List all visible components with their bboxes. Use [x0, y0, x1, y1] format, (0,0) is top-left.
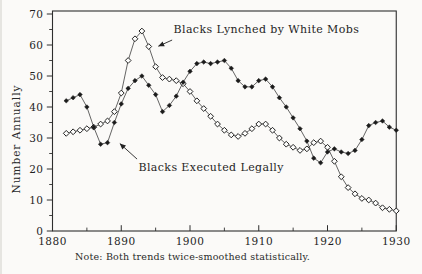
filled-diamond-marker: [332, 147, 337, 152]
chart-svg: 188018901900191019201930010203040506070B…: [0, 0, 422, 274]
filled-diamond-marker: [298, 126, 303, 131]
y-tick-label: 50: [29, 70, 43, 82]
y-tick-label: 10: [29, 194, 43, 206]
filled-diamond-marker: [366, 123, 371, 128]
filled-diamond-marker: [291, 116, 296, 121]
x-tick-label: 1900: [176, 235, 205, 247]
y-tick-label: 20: [29, 163, 43, 175]
x-axis-ticks: 188018901900191019201930: [38, 225, 410, 247]
filled-diamond-marker: [112, 120, 117, 125]
filled-diamond-marker: [373, 120, 378, 125]
y-tick-label: 0: [36, 225, 43, 237]
annotation-label: Blacks Executed Legally: [138, 161, 284, 174]
filled-diamond-marker: [85, 105, 90, 110]
filled-diamond-marker: [78, 92, 83, 97]
filled-diamond-marker: [394, 128, 399, 133]
open-diamond-marker: [173, 78, 179, 84]
open-diamond-marker: [249, 126, 255, 132]
y-tick-label: 40: [29, 101, 43, 113]
open-diamond-marker: [84, 126, 90, 132]
open-diamond-marker: [235, 134, 241, 140]
open-diamond-marker: [63, 130, 69, 136]
filled-diamond-marker: [71, 95, 76, 100]
x-tick-label: 1930: [382, 235, 411, 247]
open-diamond-marker: [338, 174, 344, 180]
open-diamond-marker: [105, 118, 111, 124]
open-diamond-marker: [98, 121, 104, 127]
filled-diamond-marker: [119, 102, 124, 107]
filled-diamond-marker: [305, 139, 310, 144]
filled-diamond-marker: [360, 137, 365, 142]
open-diamond-marker: [242, 130, 248, 136]
x-tick-label: 1880: [38, 235, 67, 247]
filled-diamond-marker: [353, 148, 358, 153]
x-tick-label: 1910: [244, 235, 273, 247]
filled-diamond-marker: [208, 61, 213, 66]
filled-diamond-marker: [64, 99, 69, 104]
open-diamond-marker: [366, 197, 372, 203]
filled-diamond-marker: [105, 140, 110, 145]
open-diamond-marker: [393, 208, 399, 214]
open-diamond-marker: [160, 75, 166, 81]
filled-diamond-marker: [318, 161, 323, 166]
open-diamond-marker: [153, 64, 159, 70]
footnote: Note: Both trends twice-smoothed statist…: [75, 251, 310, 262]
series-lynched-line: [66, 31, 396, 211]
filled-diamond-marker: [98, 142, 103, 147]
open-diamond-marker: [290, 144, 296, 150]
x-tick-label: 1890: [107, 235, 136, 247]
open-diamond-marker: [125, 58, 131, 64]
annotation-executed: Blacks Executed Legally: [120, 144, 284, 175]
y-axis-ticks: 010203040506070: [29, 8, 52, 237]
open-diamond-marker: [380, 205, 386, 211]
filled-diamond-marker: [339, 150, 344, 155]
open-diamond-marker: [70, 129, 76, 135]
annotation-arrow: [120, 144, 137, 160]
open-diamond-marker: [166, 76, 172, 82]
filled-diamond-marker: [346, 151, 351, 156]
open-diamond-marker: [331, 158, 337, 164]
open-diamond-marker: [373, 200, 379, 206]
filled-diamond-marker: [215, 60, 220, 65]
open-diamond-marker: [256, 121, 262, 127]
open-diamond-marker: [77, 127, 83, 133]
x-tick-label: 1920: [313, 235, 342, 247]
open-diamond-marker: [386, 206, 392, 212]
filled-diamond-marker: [201, 60, 206, 65]
open-diamond-marker: [228, 132, 234, 138]
open-diamond-marker: [118, 90, 124, 96]
y-tick-label: 70: [29, 8, 43, 20]
y-tick-label: 60: [29, 39, 43, 51]
y-tick-label: 30: [29, 132, 43, 144]
annotation-lynched: Blacks Lynched by White Mobs: [158, 23, 359, 47]
filled-diamond-marker: [311, 156, 316, 161]
annotation-label: Blacks Lynched by White Mobs: [174, 23, 360, 36]
annotation-arrow: [158, 40, 172, 46]
open-diamond-marker: [111, 109, 117, 115]
open-diamond-marker: [297, 148, 303, 154]
open-diamond-marker: [359, 196, 365, 202]
open-diamond-marker: [146, 44, 152, 50]
